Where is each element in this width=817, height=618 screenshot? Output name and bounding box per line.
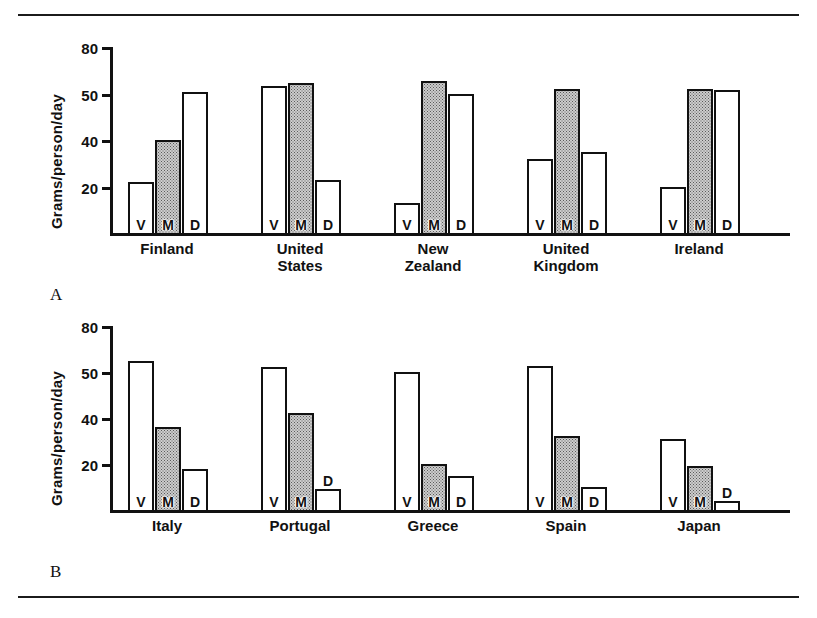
y-axis-tick — [102, 418, 111, 421]
y-axis-tick-label: 80 — [64, 40, 98, 57]
y-axis-tick — [102, 187, 111, 190]
x-axis-group-label-greece: Greece — [360, 517, 506, 534]
bar-portugal-v: V — [261, 367, 287, 512]
bar-ireland-d: D — [714, 90, 740, 235]
bar-letter-v: V — [662, 218, 684, 232]
bar-ireland-v: V — [660, 187, 686, 236]
y-axis-title: Grams/person/day — [48, 94, 65, 229]
bar-italy-d: D — [182, 469, 208, 512]
group-label-line: United — [227, 240, 373, 257]
bar-greece-m: M — [421, 464, 447, 512]
y-axis-tick — [102, 94, 111, 97]
bar-letter-v: V — [396, 495, 418, 509]
group-label-line: Greece — [360, 517, 506, 534]
bar-letter-v: V — [396, 218, 418, 232]
bar-letter-m: M — [423, 218, 445, 232]
bar-spain-v: V — [527, 366, 553, 512]
bar-letter-d: D — [716, 218, 738, 232]
x-axis-group-label-spain: Spain — [493, 517, 639, 534]
group-label-line: New — [360, 240, 506, 257]
bar-portugal-d: D — [315, 489, 341, 512]
bar-finland-m: M — [155, 140, 181, 235]
x-axis-group-label-united-kingdom: UnitedKingdom — [493, 240, 639, 274]
bar-letter-v: V — [529, 495, 551, 509]
bar-new-zealand-m: M — [421, 81, 447, 235]
group-label-line: Portugal — [227, 517, 373, 534]
bar-letter-m: M — [423, 495, 445, 509]
bar-spain-m: M — [554, 436, 580, 512]
bar-letter-m: M — [157, 495, 179, 509]
group-label-line: Japan — [626, 517, 772, 534]
x-axis-group-label-new-zealand: NewZealand — [360, 240, 506, 274]
bar-letter-m: M — [689, 495, 711, 509]
bar-united-states-m: M — [288, 83, 314, 235]
bar-united-states-d: D — [315, 180, 341, 235]
bar-italy-m: M — [155, 427, 181, 512]
bar-letter-d: D — [184, 495, 206, 509]
group-label-line: Ireland — [626, 240, 772, 257]
bar-spain-d: D — [581, 487, 607, 512]
x-axis-group-label-united-states: UnitedStates — [227, 240, 373, 274]
bar-letter-d: D — [317, 474, 339, 488]
y-axis-tick — [102, 140, 111, 143]
group-label-line: Kingdom — [493, 257, 639, 274]
group-label-line: Finland — [94, 240, 240, 257]
bar-united-kingdom-m: M — [554, 89, 580, 235]
x-axis-group-label-ireland: Ireland — [626, 240, 772, 257]
figure-frame: Grams/person/day80504020VMDFinlandVMDUni… — [0, 0, 817, 618]
bar-letter-v: V — [662, 495, 684, 509]
bar-letter-v: V — [130, 495, 152, 509]
bar-letter-v: V — [263, 495, 285, 509]
bar-japan-d: D — [714, 501, 740, 512]
y-axis-tick-label: 50 — [64, 86, 98, 103]
bar-letter-m: M — [556, 495, 578, 509]
y-axis-tick-label: 80 — [64, 319, 98, 336]
bar-letter-m: M — [689, 218, 711, 232]
x-axis-group-label-italy: Italy — [94, 517, 240, 534]
bar-letter-d: D — [450, 495, 472, 509]
y-axis-tick-label: 40 — [64, 133, 98, 150]
group-label-line: Zealand — [360, 257, 506, 274]
bar-finland-v: V — [128, 182, 154, 235]
chart-panel-b: Grams/person/day80504020VMDItalyVMDPortu… — [0, 320, 817, 586]
bar-new-zealand-d: D — [448, 94, 474, 236]
bar-greece-v: V — [394, 372, 420, 512]
bar-united-kingdom-v: V — [527, 159, 553, 235]
bar-italy-v: V — [128, 361, 154, 512]
bar-letter-d: D — [450, 218, 472, 232]
bar-united-kingdom-d: D — [581, 152, 607, 235]
y-axis-tick — [102, 464, 111, 467]
bar-new-zealand-v: V — [394, 203, 420, 235]
chart-panel-a: Grams/person/day80504020VMDFinlandVMDUni… — [0, 28, 817, 308]
x-axis-group-label-finland: Finland — [94, 240, 240, 257]
bar-letter-m: M — [290, 495, 312, 509]
y-axis-tick-label: 40 — [64, 411, 98, 428]
bar-greece-d: D — [448, 476, 474, 513]
group-label-line: Italy — [94, 517, 240, 534]
bar-letter-d: D — [716, 486, 738, 500]
bar-portugal-m: M — [288, 413, 314, 512]
bar-letter-d: D — [184, 218, 206, 232]
y-axis-tick-label: 50 — [64, 365, 98, 382]
bar-letter-v: V — [263, 218, 285, 232]
bar-japan-v: V — [660, 439, 686, 512]
y-axis-tick — [102, 326, 111, 329]
bottom-rule — [18, 596, 799, 598]
y-axis-tick — [102, 372, 111, 375]
group-label-line: United — [493, 240, 639, 257]
bar-letter-v: V — [130, 218, 152, 232]
bar-letter-m: M — [290, 218, 312, 232]
bar-letter-m: M — [556, 218, 578, 232]
bar-united-states-v: V — [261, 86, 287, 235]
y-axis-tick-label: 20 — [64, 179, 98, 196]
group-label-line: Spain — [493, 517, 639, 534]
y-axis-title: Grams/person/day — [48, 371, 65, 506]
bar-ireland-m: M — [687, 89, 713, 235]
panel-letter-b: B — [50, 562, 61, 582]
panel-letter-a: A — [50, 285, 62, 305]
y-axis-tick — [102, 47, 111, 50]
bar-letter-v: V — [529, 218, 551, 232]
group-label-line: States — [227, 257, 373, 274]
bar-letter-d: D — [583, 495, 605, 509]
x-axis-group-label-portugal: Portugal — [227, 517, 373, 534]
